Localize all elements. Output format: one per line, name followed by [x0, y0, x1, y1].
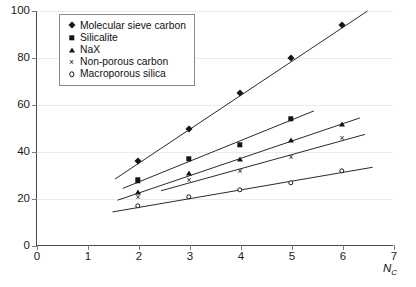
data-point-cross: ×: [186, 177, 193, 184]
data-point-cross: ×: [288, 153, 295, 160]
legend-label: Silicalite: [80, 32, 118, 44]
data-point-circle: [135, 203, 140, 208]
data-point-diamond: [287, 54, 294, 61]
data-point-triangle: [288, 138, 294, 143]
data-point-square: [237, 142, 242, 147]
legend-symbol: [66, 44, 77, 55]
data-point-diamond: [185, 125, 192, 132]
legend-symbol: ×: [66, 56, 77, 67]
square-marker-icon: [69, 35, 74, 40]
x-axis-title-sub: C: [391, 268, 397, 277]
legend-item: Molecular sieve carbon: [66, 20, 186, 32]
data-point-cross: ×: [237, 167, 244, 174]
cross-marker-icon: ×: [68, 58, 75, 65]
data-point-diamond: [134, 158, 141, 165]
circle-marker-icon: [69, 71, 74, 76]
data-point-square: [135, 177, 140, 182]
data-point-square: [288, 116, 293, 121]
data-point-square: [186, 156, 191, 161]
legend-label: Molecular sieve carbon: [80, 20, 186, 32]
legend-label: Macroporous silica: [80, 68, 166, 80]
data-point-circle: [237, 187, 242, 192]
chart-legend: Molecular sieve carbonSilicaliteNaX×Non-…: [59, 14, 195, 86]
data-point-cross: ×: [135, 193, 142, 200]
legend-item: Macroporous silica: [66, 68, 186, 80]
legend-symbol: [66, 20, 77, 31]
data-point-circle: [339, 168, 344, 173]
legend-item: Silicalite: [66, 32, 186, 44]
legend-symbol: [66, 32, 77, 43]
legend-label: Non-porous carbon: [80, 56, 168, 68]
data-point-diamond: [338, 22, 345, 29]
data-point-triangle: [339, 121, 345, 126]
legend-symbol: [66, 69, 77, 80]
diamond-marker-icon: [68, 22, 75, 29]
triangle-marker-icon: [69, 47, 75, 52]
legend-item: ×Non-porous carbon: [66, 56, 186, 68]
chart-figure: 020406080100 01234567 ××××× NC Molecular…: [0, 0, 416, 287]
data-point-cross: ×: [339, 134, 346, 141]
data-point-circle: [186, 194, 191, 199]
legend-item: NaX: [66, 44, 186, 56]
data-point-circle: [288, 180, 293, 185]
data-point-diamond: [236, 90, 243, 97]
legend-label: NaX: [80, 44, 100, 56]
x-axis-title: NC: [383, 262, 397, 277]
data-point-triangle: [237, 157, 243, 162]
